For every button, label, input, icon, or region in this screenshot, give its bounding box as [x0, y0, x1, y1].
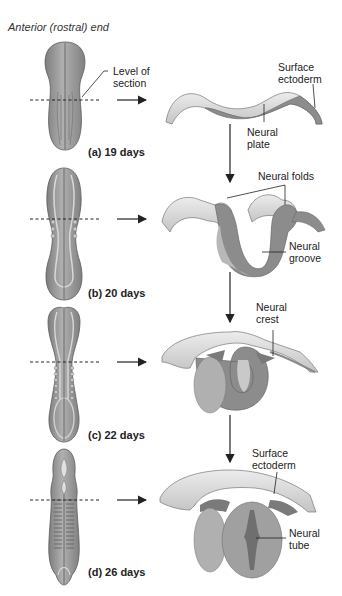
- section-neural-plate: [166, 93, 322, 125]
- neural-tube-label: Neural tube: [289, 527, 320, 551]
- surface-ectoderm-label-2: Surface ectoderm: [252, 447, 296, 471]
- neural-folds-label: Neural folds: [258, 170, 314, 182]
- surface-ectoderm-label-1: Surface ectoderm: [278, 61, 322, 85]
- neural-plate-label: Neural plate: [247, 126, 278, 150]
- section-neural-groove: [162, 195, 325, 277]
- surface-ectoderm-leader-1: [313, 84, 315, 108]
- section-neural-tube: [160, 470, 316, 578]
- stage-label-d: (d) 26 days: [88, 566, 145, 578]
- stage-label-c: (c) 22 days: [88, 429, 145, 441]
- level-of-section-label: Level of section: [113, 65, 150, 89]
- neurulation-diagram: [0, 0, 342, 596]
- stage-label-b: (b) 20 days: [88, 287, 145, 299]
- neural-groove-label: Neural groove: [289, 240, 321, 264]
- level-of-section-leader: [82, 71, 108, 97]
- neural-crest-label: Neural crest: [256, 301, 287, 325]
- embryo-19-days: [45, 42, 85, 150]
- embryo-20-days: [46, 168, 82, 300]
- embryo-22-days: [48, 307, 80, 442]
- stage-label-a: (a) 19 days: [88, 146, 145, 158]
- section-neural-crest: [162, 332, 318, 413]
- embryo-26-days: [49, 449, 79, 585]
